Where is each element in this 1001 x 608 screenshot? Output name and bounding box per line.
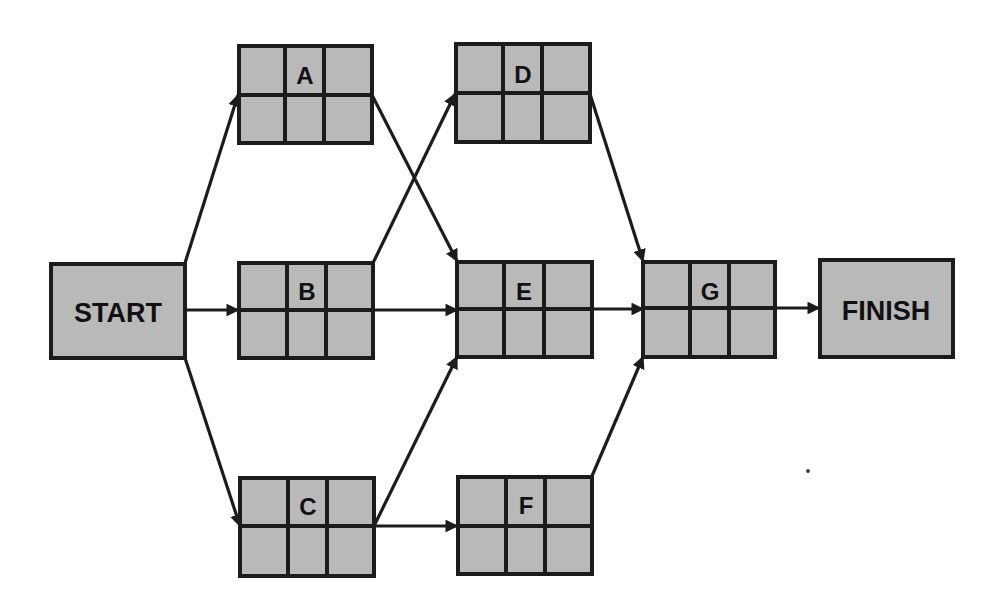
node-e: E [457,262,592,357]
node-e-label: E [516,278,532,305]
node-d-label: D [514,61,531,88]
edge-f-g [592,357,643,476]
node-a: A [239,46,372,143]
node-a-label: A [296,62,313,89]
node-c: C [240,478,374,576]
node-c-label: C [299,493,316,520]
network-diagram: START A B C D E [0,0,1001,608]
edge-c-e [374,357,457,526]
node-finish: FINISH [820,260,953,357]
node-d: D [456,44,590,142]
node-finish-label: FINISH [842,296,931,326]
scan-artifact-dot [806,469,810,473]
edge-d-g [590,94,643,261]
node-b: B [239,263,373,358]
node-f: F [458,477,592,574]
edge-start-c [185,358,240,526]
node-start: START [51,264,185,358]
node-start-label: START [74,298,162,328]
node-b-label: B [298,278,315,305]
edge-start-a [185,95,238,263]
node-f-label: F [519,492,534,519]
node-g: G [643,262,775,357]
node-g-label: G [701,278,720,305]
